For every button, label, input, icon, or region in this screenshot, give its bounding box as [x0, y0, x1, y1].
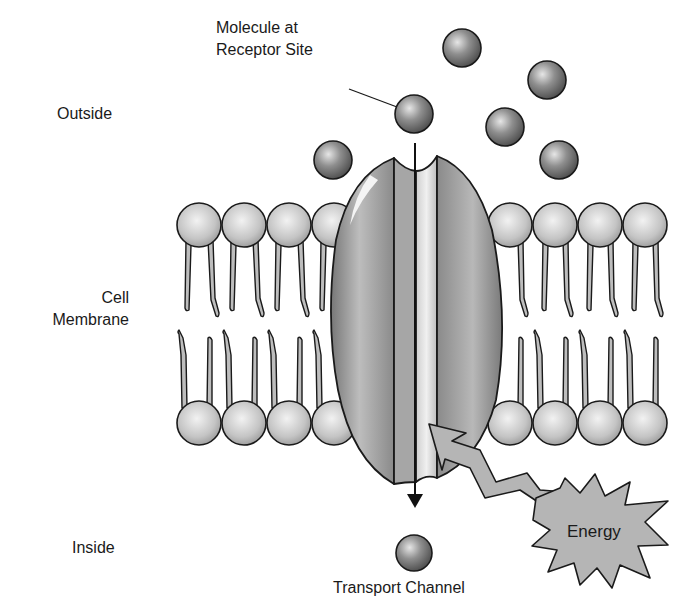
arrow-head-icon — [407, 494, 423, 508]
cell-membrane-label-line2: Membrane — [0, 310, 129, 330]
molecule-at-receptor-site — [395, 95, 433, 133]
molecule — [486, 108, 524, 146]
molecule-label-line1: Molecule at — [216, 18, 298, 38]
outside-label: Outside — [57, 104, 112, 124]
molecule-inside — [396, 535, 432, 571]
transport-channel-label: Transport Channel — [333, 578, 465, 598]
molecule — [314, 141, 352, 179]
molecules-outside — [314, 29, 578, 179]
energy-label: Energy — [567, 522, 621, 542]
protein-left-strip — [394, 158, 416, 484]
molecule — [528, 61, 566, 99]
molecule — [540, 141, 578, 179]
transport-channel-protein — [331, 156, 502, 484]
inside-label: Inside — [72, 538, 115, 558]
molecule — [443, 29, 481, 67]
molecule-label-line2: Receptor Site — [216, 40, 313, 60]
cell-membrane-label-line1: Cell — [40, 288, 129, 308]
